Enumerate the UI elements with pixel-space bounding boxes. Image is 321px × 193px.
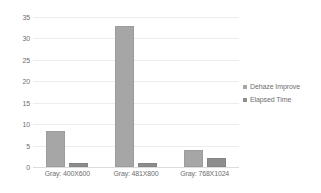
x-axis-tick-label: Gray: 768X1024 xyxy=(170,169,239,183)
y-axis-tick-label: 30 xyxy=(8,35,30,42)
chart-legend: Dehaze ImproveElapsed Time xyxy=(243,80,317,106)
y-axis-tick-label: 10 xyxy=(8,121,30,128)
y-axis-tick-label: 25 xyxy=(8,56,30,63)
legend-swatch-icon xyxy=(243,85,247,89)
legend-entry-0[interactable]: Dehaze Improve xyxy=(243,80,317,93)
y-axis-tick-label: 35 xyxy=(8,14,30,21)
x-axis-tick-label: Gray: 400X600 xyxy=(33,169,102,183)
bar-1-0 xyxy=(69,163,88,167)
bar-group xyxy=(33,17,102,167)
bar-group xyxy=(170,17,239,167)
legend-swatch-icon xyxy=(243,98,247,102)
legend-label: Elapsed Time xyxy=(250,96,291,104)
gridline xyxy=(33,167,239,168)
plot-area xyxy=(33,17,239,167)
legend-entry-1[interactable]: Elapsed Time xyxy=(243,93,317,106)
bar-chart-figure: 05101520253035 Gray: 400X600Gray: 481X80… xyxy=(0,0,321,193)
bar-1-1 xyxy=(138,163,157,167)
x-axis-tick-label: Gray: 481X800 xyxy=(102,169,171,183)
y-axis-tick-label: 0 xyxy=(8,164,30,171)
bar-0-1 xyxy=(115,26,134,167)
bar-group xyxy=(102,17,171,167)
legend-label: Dehaze Improve xyxy=(250,83,300,91)
bar-1-2 xyxy=(207,158,226,167)
y-axis-tick-label: 5 xyxy=(8,142,30,149)
y-axis-tick-label: 20 xyxy=(8,78,30,85)
bar-groups xyxy=(33,17,239,167)
y-axis-tick-label: 15 xyxy=(8,99,30,106)
y-axis: 05101520253035 xyxy=(8,17,30,167)
bar-0-2 xyxy=(184,150,203,167)
bar-0-0 xyxy=(46,131,65,167)
x-axis: Gray: 400X600Gray: 481X800Gray: 768X1024 xyxy=(33,169,239,183)
